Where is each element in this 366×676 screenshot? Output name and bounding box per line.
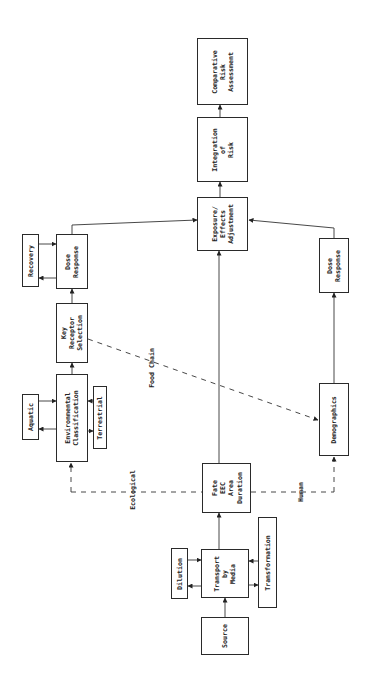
food-chain-label: Food Chain xyxy=(148,348,156,388)
transformation-box: Transformation xyxy=(258,517,277,608)
demographics-box: Demographics xyxy=(319,383,349,456)
terrestrial-label: Terrestrial xyxy=(96,396,104,440)
terrestrial-box: Terrestrial xyxy=(93,386,107,449)
aquatic-label: Aquatic xyxy=(26,403,34,431)
recovery-box: Recovery xyxy=(22,234,39,287)
dilution-label: Dilution xyxy=(175,558,183,590)
recovery-label: Recovery xyxy=(26,245,34,277)
dose-response-human-box: Dose Response xyxy=(319,238,349,293)
integration-box: Integration of Risk xyxy=(197,117,248,182)
transformation-label: Transformation xyxy=(263,535,271,591)
comparative-label: Comparative Risk Assessment xyxy=(210,50,235,94)
ecological-label: Ecological xyxy=(129,470,137,510)
exposure-effects-label: Exposure/ Effects Adjustment xyxy=(210,204,235,244)
fate-label: Fate EEC Area Duration xyxy=(210,472,243,504)
environmental-classification-label: Environmental Classification xyxy=(64,390,80,446)
aquatic-box: Aquatic xyxy=(22,394,39,440)
dose-response-human-label: Dose Response xyxy=(326,250,342,282)
exposure-effects-box: Exposure/ Effects Adjustment xyxy=(197,197,248,251)
dilution-box: Dilution xyxy=(171,548,188,599)
fate-box: Fate EEC Area Duration xyxy=(202,463,251,513)
integration-label: Integration of Risk xyxy=(210,128,235,172)
key-receptor-label: Key Receptor Selection xyxy=(60,315,85,351)
transport-label: Transport by Media xyxy=(213,556,238,592)
environmental-classification-box: Environmental Classification xyxy=(56,374,88,462)
human-label: Human xyxy=(297,482,305,502)
risk-assessment-flow-diagram: Source Transport by Media Dilution Trans… xyxy=(0,0,366,676)
dose-response-eco-box: Dose Response xyxy=(56,234,88,289)
comparative-box: Comparative Risk Assessment xyxy=(197,38,248,105)
demographics-label: Demographics xyxy=(330,396,338,444)
source-label: Source xyxy=(221,624,229,648)
dose-response-eco-label: Dose Response xyxy=(64,246,80,278)
key-receptor-box: Key Receptor Selection xyxy=(56,303,88,363)
source-box: Source xyxy=(201,617,249,655)
transport-box: Transport by Media xyxy=(201,549,249,598)
